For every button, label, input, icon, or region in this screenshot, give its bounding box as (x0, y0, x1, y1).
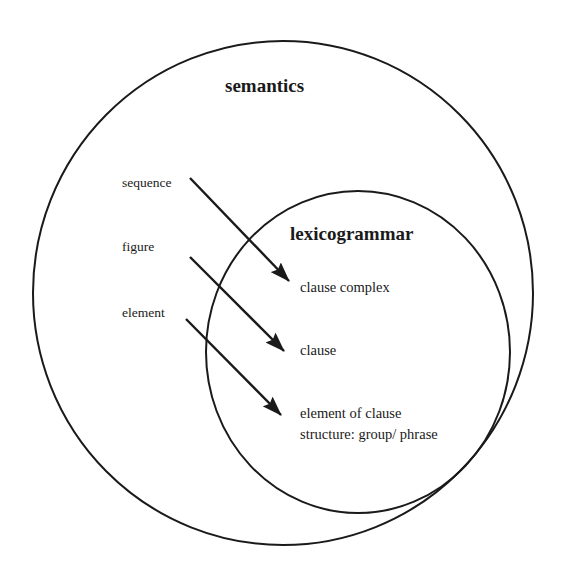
grammatical-unit-group-phrase: structure: group/ phrase (300, 427, 438, 442)
lexicogrammar-title: lexicogrammar (290, 224, 413, 243)
grammatical-unit-element-of-clause: element of clause (300, 406, 401, 421)
semantic-unit-figure: figure (122, 240, 154, 254)
grammatical-unit-clause: clause (300, 343, 336, 358)
arrow-sequence-to-clause-complex (190, 178, 289, 281)
semantics-title: semantics (225, 76, 304, 95)
grammatical-unit-clause-complex: clause complex (300, 280, 390, 295)
semantics-circle (33, 41, 533, 545)
semantic-unit-element: element (122, 306, 165, 320)
realization-diagram: semantics lexicogrammar sequence figure … (0, 0, 570, 583)
semantic-unit-sequence: sequence (122, 176, 171, 190)
